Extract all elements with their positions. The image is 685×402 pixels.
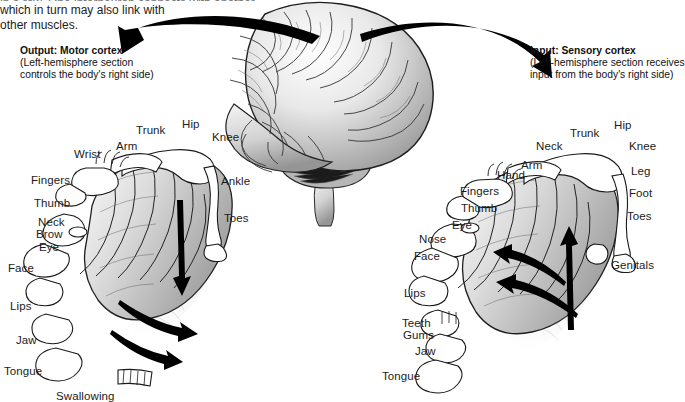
motor-label-arm: Arm	[116, 140, 137, 152]
motor-label-jaw: Jaw	[16, 334, 37, 346]
sensory-label-eye: Eye	[452, 219, 472, 231]
motor-label-face: Face	[8, 262, 34, 274]
sensory-label-face: Face	[414, 250, 440, 262]
central-brain-illustration	[226, 2, 433, 226]
motor-label-tongue: Tongue	[4, 365, 42, 377]
motor-callout-line1: (Left-hemisphere section	[20, 57, 133, 68]
sensory-label-hip: Hip	[614, 119, 632, 131]
motor-label-hip: Hip	[182, 118, 200, 130]
sensory-callout-heading: Input: Sensory cortex	[530, 45, 636, 56]
sensory-label-knee: Knee	[629, 140, 656, 152]
sensory-label-hand: Hand	[497, 169, 525, 181]
motor-label-neck: Neck	[38, 216, 65, 228]
sensory-label-foot: Foot	[629, 187, 652, 199]
sensory-cortex-callout: Input: Sensory cortex (Left-hemisphere s…	[530, 45, 685, 81]
sensory-label-teeth: Teeth	[402, 317, 431, 329]
sensory-label-lips: Lips	[404, 287, 426, 299]
motor-label-fingers: Fingers	[31, 174, 70, 186]
motor-label-thumb: Thumb	[34, 197, 70, 209]
motor-label-trunk: Trunk	[136, 124, 165, 136]
sensory-label-jaw: Jaw	[415, 345, 436, 357]
motor-callout-line2: controls the body's right side)	[20, 69, 154, 80]
motor-cortex-callout: Output: Motor cortex (Left-hemisphere se…	[20, 45, 154, 81]
sensory-label-toes: Toes	[627, 210, 652, 222]
sensory-label-tongue: Tongue	[382, 370, 420, 382]
sensory-label-leg: Leg	[631, 165, 651, 177]
intro-line-1: which in turn may also link with	[0, 3, 165, 18]
intro-line-2: other muscles.	[0, 18, 78, 33]
motor-label-swallowing: Swallowing	[56, 390, 115, 402]
sensory-label-nose: Nose	[419, 233, 446, 245]
motor-label-ankle: Ankle	[221, 175, 250, 187]
motor-callout-heading: Output: Motor cortex	[20, 45, 122, 56]
sensory-callout-line1: (Left-hemisphere section receives	[530, 57, 685, 68]
motor-label-toes: Toes	[224, 212, 249, 224]
motor-label-brow: Brow	[36, 228, 63, 240]
motor-label-lips: Lips	[10, 300, 32, 312]
motor-label-eye: Eye	[39, 241, 59, 253]
sensory-label-gums: Gums	[403, 329, 434, 341]
intro-cut-line: in a row. One interneuron connects with …	[0, 0, 258, 1]
sensory-label-genitals: Genitals	[611, 259, 654, 271]
motor-label-knee: Knee	[212, 131, 239, 143]
motor-label-wrist: Wrist	[74, 148, 100, 160]
sensory-label-trunk: Trunk	[570, 127, 599, 139]
sensory-label-neck: Neck	[536, 140, 563, 152]
sensory-label-fingers: Fingers	[460, 185, 499, 197]
sensory-callout-line2: input from the body's right side)	[530, 69, 673, 80]
sensory-label-thumb: Thumb	[461, 202, 497, 214]
sensory-cortex-strip	[409, 154, 636, 393]
